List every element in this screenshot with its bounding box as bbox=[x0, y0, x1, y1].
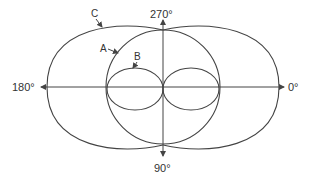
label-a: A bbox=[100, 43, 107, 54]
label-90deg: 90° bbox=[154, 162, 171, 174]
curve-b-left-lobe bbox=[107, 68, 163, 110]
label-270deg: 270° bbox=[150, 8, 173, 20]
pointer-b bbox=[133, 62, 137, 68]
label-c: C bbox=[91, 8, 98, 19]
label-0deg: 0° bbox=[288, 81, 299, 93]
label-b: B bbox=[134, 51, 141, 62]
polar-diagram: C A B 0° 180° 270° 90° bbox=[0, 0, 313, 179]
curve-b-right-lobe bbox=[163, 68, 219, 110]
pointer-a bbox=[108, 49, 118, 53]
label-180deg: 180° bbox=[12, 81, 35, 93]
pointer-c bbox=[96, 19, 102, 27]
